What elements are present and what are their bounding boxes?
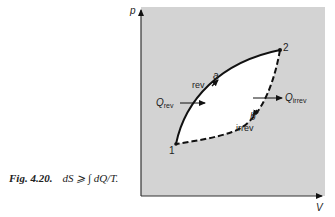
figure-caption: Fig. 4.20.dS ⩾ ∫ dQ/T. <box>9 172 118 185</box>
rev-marker-label: a <box>213 70 219 81</box>
rev-label: rev <box>192 80 205 90</box>
point-2-label: 2 <box>283 42 289 53</box>
irrev-label: irrev <box>236 123 254 133</box>
q-rev-subscript: rev <box>164 102 174 109</box>
x-axis-label: V <box>316 202 324 213</box>
state-point-2 <box>278 48 282 52</box>
q-irrev-subscript: irrev <box>293 97 307 104</box>
state-point-1 <box>174 142 178 146</box>
figure-equation: dS ⩾ ∫ dQ/T. <box>62 172 118 184</box>
irrev-marker-label: b <box>250 111 256 122</box>
point-1-label: 1 <box>169 145 175 156</box>
y-axis-label: p <box>129 5 136 16</box>
figure-label: Fig. 4.20. <box>9 172 52 184</box>
